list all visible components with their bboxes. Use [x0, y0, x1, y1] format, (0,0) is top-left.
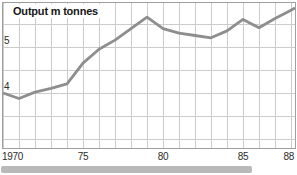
x-axis-tick-label: 80 [158, 151, 169, 162]
line-chart-canvas [0, 0, 297, 175]
output-line-chart: Output m tonnes 54197075808588 [0, 0, 297, 175]
x-axis-tick-label: 1970 [2, 151, 23, 162]
y-axis-tick-label: 5 [4, 35, 9, 46]
bottom-grey-strip [1, 166, 252, 173]
x-axis-tick-label: 75 [78, 151, 89, 162]
x-axis-tick-label: 85 [238, 151, 249, 162]
x-axis-tick-label: 88 [283, 151, 294, 162]
chart-title: Output m tonnes [11, 4, 101, 18]
y-axis-tick-label: 4 [4, 81, 9, 92]
